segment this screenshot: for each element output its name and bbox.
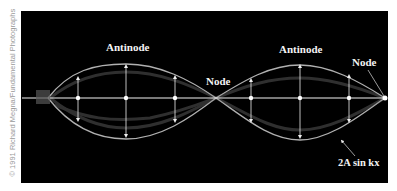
envelope-pointer xyxy=(342,141,355,156)
label-node-middle: Node xyxy=(206,75,230,87)
label-antinode-right: Antinode xyxy=(279,43,322,55)
label-node-right: Node xyxy=(352,56,376,68)
label-envelope: 2A sin kx xyxy=(338,157,379,168)
label-antinode-left: Antinode xyxy=(106,41,149,53)
oscillator xyxy=(36,90,50,104)
photo-credit: © 1991 Richard Megna/Fundamental Photogr… xyxy=(8,17,17,177)
